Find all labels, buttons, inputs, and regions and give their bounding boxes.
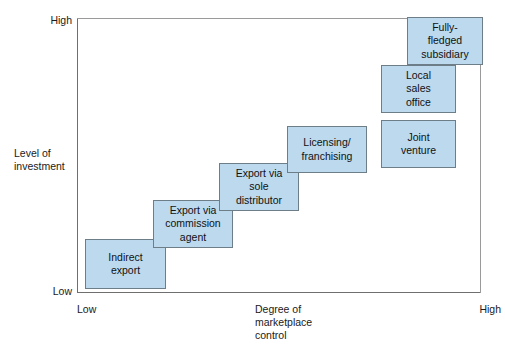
y-axis-low-label: Low xyxy=(14,285,72,297)
entry-mode-box: Licensing/ franchising xyxy=(287,126,367,173)
x-axis-line xyxy=(77,292,481,293)
entry-mode-box: Fully- fledged subsidiary xyxy=(407,17,483,65)
y-axis-high-label: High xyxy=(14,14,72,26)
y-axis-title: Level of investment xyxy=(14,147,76,173)
market-entry-mode-diagram: High Low Level of investment Low High De… xyxy=(0,0,505,350)
x-axis-title: Degree of marketplace control xyxy=(255,303,365,342)
y-axis-line xyxy=(77,18,78,293)
x-axis-low-label: Low xyxy=(77,303,96,315)
x-axis-high-label: High xyxy=(425,303,501,315)
entry-mode-box: Local sales office xyxy=(381,65,456,113)
entry-mode-box: Joint venture xyxy=(381,120,456,168)
